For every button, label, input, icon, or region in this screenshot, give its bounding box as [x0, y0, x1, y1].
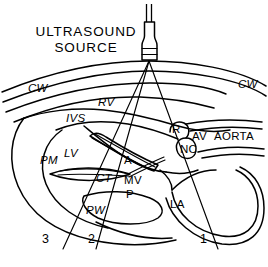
beam-label-2: 2 [88, 232, 95, 246]
label-posterior-wall: PW [86, 204, 106, 216]
label-anterior-leaflet: A [124, 154, 132, 166]
label-aortic-valve: AV [192, 130, 207, 142]
title-line-1: ULTRASOUND [35, 24, 136, 39]
beam-label-3: 3 [42, 232, 49, 246]
beam-line-2 [96, 61, 149, 249]
label-posterior-leaflet: P [126, 188, 134, 200]
label-left-ventricle: LV [64, 147, 79, 159]
label-mitral-valve: MV [124, 174, 142, 186]
aorta-anterior-wall [186, 120, 262, 124]
label-aorta: AORTA [214, 130, 254, 142]
label-noncoronary-cusp: NC [180, 143, 197, 155]
label-right-ventricle: RV [98, 96, 115, 108]
label-ivs: IVS [66, 112, 85, 124]
aorta-posterior-wall-2 [202, 154, 264, 158]
label-chest-wall-left: CW [28, 82, 49, 94]
ultrasound-transducer [142, 4, 157, 60]
label-chordae-tendineae: CT [96, 172, 113, 184]
label-right-cusp: R [172, 123, 181, 135]
beam-label-1: 1 [200, 232, 207, 246]
title-line-2: SOURCE [54, 40, 117, 55]
label-chest-wall-right: CW [238, 78, 259, 90]
label-left-atrium: LA [170, 198, 185, 210]
pm-hatch-2 [58, 174, 129, 176]
mitral-anulus [166, 170, 198, 173]
cardiac-scan-figure: ULTRASOUND SOURCE CW CW RV IVS LV PM CT … [0, 0, 268, 267]
beam-line-1 [149, 61, 218, 249]
label-papillary-muscle: PM [40, 154, 58, 166]
aorta-posterior-wall [198, 147, 264, 152]
ultrasound-diagram: ULTRASOUND SOURCE CW CW RV IVS LV PM CT … [0, 0, 268, 267]
